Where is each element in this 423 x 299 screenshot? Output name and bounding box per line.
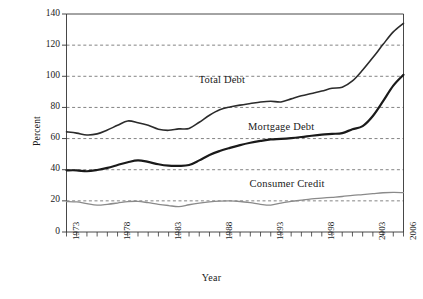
y-axis-title-text: Percent bbox=[2, 96, 24, 166]
y-tick-label-40: 40 bbox=[28, 163, 60, 173]
series-label-total-debt: Total Debt bbox=[199, 74, 245, 85]
x-tick-label-2003: 2003 bbox=[377, 222, 387, 240]
x-axis-title: Year bbox=[0, 272, 423, 283]
x-tick-label-1998: 1998 bbox=[326, 222, 336, 240]
x-tick-label-1983: 1983 bbox=[173, 222, 183, 240]
y-tick-label-0: 0 bbox=[28, 226, 60, 236]
x-tick-label-1973: 1973 bbox=[71, 222, 81, 240]
y-tick-label-60: 60 bbox=[28, 132, 60, 142]
y-tick-label-80: 80 bbox=[28, 101, 60, 111]
series-line-consumer-credit bbox=[67, 192, 404, 206]
x-tick-label-2006: 2006 bbox=[408, 222, 418, 240]
y-tick-label-100: 100 bbox=[28, 70, 60, 80]
x-tick-label-1988: 1988 bbox=[224, 222, 234, 240]
y-tick-label-20: 20 bbox=[28, 194, 60, 204]
series-line-mortgage-debt bbox=[67, 75, 404, 172]
series-label-consumer-credit: Consumer Credit bbox=[250, 178, 325, 189]
debt-to-income-line-chart: Percent Year 020406080100120140 19731978… bbox=[0, 0, 423, 299]
y-tick-label-120: 120 bbox=[28, 39, 60, 49]
x-tick-label-1993: 1993 bbox=[275, 222, 285, 240]
x-tick-label-1978: 1978 bbox=[122, 222, 132, 240]
y-axis-title: Percent bbox=[2, 96, 24, 166]
y-tick-label-140: 140 bbox=[28, 8, 60, 18]
series-label-mortgage-debt: Mortgage Debt bbox=[248, 121, 314, 132]
chart-plot-area bbox=[0, 0, 423, 299]
